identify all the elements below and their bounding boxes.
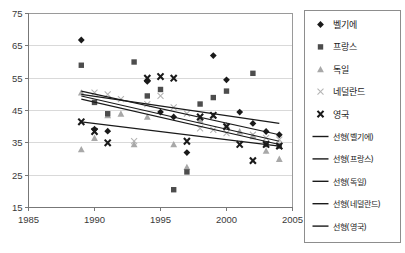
legend-label-7: 선형(독일) [333, 178, 367, 187]
data-point-1-6 [171, 187, 176, 192]
chart-container: 1525354555657519851990199520002005벨기에프랑스… [0, 0, 405, 253]
legend-label-6: 선형(프랑스) [333, 154, 374, 164]
data-point-1-0 [79, 63, 84, 68]
data-point-1-7 [184, 169, 189, 174]
y-tick-label-35: 35 [12, 137, 23, 148]
legend-entry-5[interactable]: 선형(벨기에) [306, 127, 400, 147]
y-tick-label-25: 25 [12, 170, 23, 181]
x-axis-ticks: 19851990199520002005 [18, 208, 303, 225]
data-point-1-4 [145, 93, 150, 98]
y-tick-label-65: 65 [12, 40, 23, 51]
legend-marker-square-1 [318, 44, 323, 49]
legend-entry-3[interactable]: 네덜란드 [306, 82, 400, 102]
data-point-1-3 [131, 59, 136, 64]
x-tick-label-2000: 2000 [216, 214, 237, 225]
y-axis-ticks: 15253545556575 [12, 8, 29, 213]
data-point-1-10 [224, 88, 229, 93]
y-tick-label-45: 45 [12, 105, 23, 116]
legend-entry-0[interactable]: 벨기에 [306, 15, 400, 35]
legend-entry-8[interactable]: 선형(네덜란드) [306, 194, 400, 214]
legend-entry-7[interactable]: 선형(독일) [306, 171, 400, 191]
legend-label-8: 선형(네덜란드) [333, 199, 381, 209]
legend-entry-9[interactable]: 선형(영국) [306, 216, 400, 236]
y-tick-label-75: 75 [12, 8, 23, 19]
legend-label-1: 프랑스 [333, 41, 357, 52]
legend-label-5: 선형(벨기에) [333, 132, 374, 142]
data-point-1-11 [250, 71, 255, 76]
scatter-chart: 1525354555657519851990199520002005벨기에프랑스… [0, 0, 405, 253]
data-point-1-8 [197, 101, 202, 106]
legend-label-3: 네덜란드 [333, 86, 365, 97]
legend-entry-6[interactable]: 선형(프랑스) [306, 149, 400, 169]
data-point-1-2 [105, 111, 110, 116]
legend-label-0: 벨기에 [333, 20, 357, 30]
legend-label-4: 영국 [333, 110, 349, 120]
y-tick-label-55: 55 [12, 73, 23, 84]
x-tick-label-1995: 1995 [150, 214, 171, 225]
x-tick-label-1985: 1985 [18, 214, 39, 225]
legend-entry-1[interactable]: 프랑스 [306, 37, 400, 57]
legend-label-9: 선형(영국) [333, 222, 367, 232]
legend-label-2: 독일 [333, 65, 349, 75]
legend-entry-2[interactable]: 독일 [306, 59, 400, 79]
x-tick-label-2005: 2005 [282, 214, 303, 225]
data-point-1-5 [158, 87, 163, 92]
legend-entry-4[interactable]: 영국 [306, 104, 400, 124]
data-point-1-9 [211, 95, 216, 100]
x-tick-label-1990: 1990 [84, 214, 105, 225]
y-tick-label-15: 15 [12, 202, 23, 213]
